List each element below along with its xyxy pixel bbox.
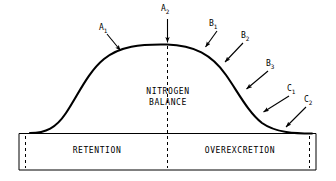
annotation-arrow-c1 <box>264 96 290 112</box>
annotation-label-a2: A2 <box>161 5 169 15</box>
nitrogen-balance-figure: A1 A2 B1 B2 B3 C1 C2 NITROGEN BALANCE RE… <box>0 0 336 181</box>
annotation-subscript-c2: 2 <box>309 99 313 106</box>
annotation-label-c2: C2 <box>304 96 312 106</box>
axis-caption-line2: BALANCE <box>128 98 208 109</box>
annotation-subscript-a1: 1 <box>104 27 108 34</box>
annotation-label-b1: B1 <box>209 20 217 30</box>
annotation-subscript-b2: 2 <box>246 35 250 42</box>
zone-label-retention: RETENTION <box>29 147 165 155</box>
annotation-subscript-b3: 3 <box>271 63 275 70</box>
annotation-label-a1: A1 <box>99 24 107 34</box>
annotation-label-c1: C1 <box>287 85 295 95</box>
annotation-subscript-c1: 1 <box>292 88 296 95</box>
axis-caption: NITROGEN BALANCE <box>128 87 208 109</box>
axis-caption-line1: NITROGEN <box>128 87 208 98</box>
annotation-subscript-a2: 2 <box>166 8 170 15</box>
annotation-arrow-c2 <box>286 107 306 127</box>
annotation-arrow-b2 <box>225 43 243 62</box>
annotation-arrow-a1 <box>107 34 121 51</box>
annotation-label-b3: B3 <box>266 60 274 70</box>
annotation-arrow-b1 <box>206 31 218 47</box>
zone-label-overexcretion: OVEREXCRETION <box>172 147 308 155</box>
annotation-subscript-b1: 1 <box>214 23 218 30</box>
annotation-label-b2: B2 <box>241 32 249 42</box>
annotation-arrow-b3 <box>247 71 269 89</box>
